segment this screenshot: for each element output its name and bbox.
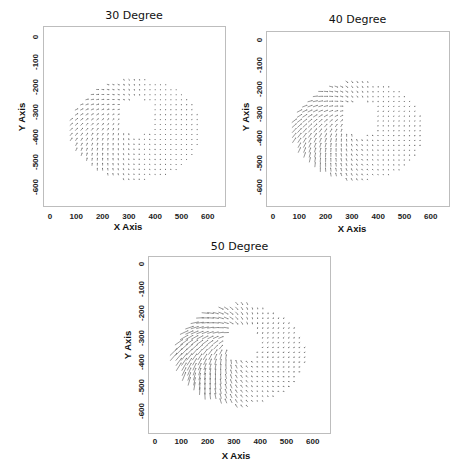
y-tick-label: -500 xyxy=(137,378,146,394)
x-axis-label: X Axis xyxy=(222,450,251,461)
x-tick-label: 300 xyxy=(227,437,240,446)
y-tick-label: 0 xyxy=(137,262,146,266)
y-tick-label: -100 xyxy=(137,280,146,296)
y-tick-label: -600 xyxy=(137,403,146,419)
x-tick-label: 500 xyxy=(280,437,293,446)
x-tick-label: 100 xyxy=(175,437,188,446)
y-axis-label: Y Axis xyxy=(122,331,133,360)
vector-field xyxy=(0,0,458,468)
y-tick-label: -300 xyxy=(137,329,146,345)
x-tick-label: 600 xyxy=(306,437,319,446)
y-tick-label: -400 xyxy=(137,354,146,370)
x-tick-label: 200 xyxy=(201,437,214,446)
x-tick-label: 400 xyxy=(254,437,267,446)
y-tick-label: -200 xyxy=(137,305,146,321)
x-tick-label: 0 xyxy=(153,437,157,446)
